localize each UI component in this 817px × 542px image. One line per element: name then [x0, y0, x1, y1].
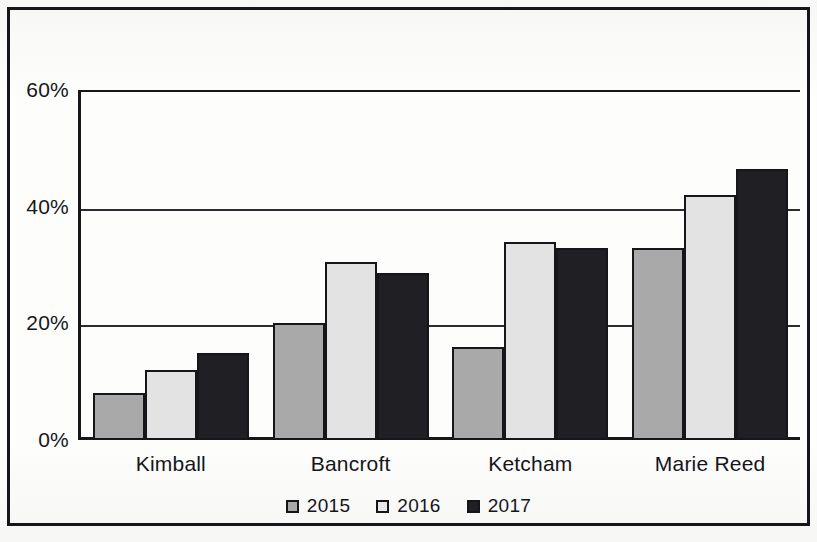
bar-kimball-2017: [197, 353, 249, 441]
bar-ketcham-2017: [556, 248, 608, 441]
bar-marie-reed-2017: [736, 169, 788, 440]
bar-kimball-2015: [93, 393, 145, 440]
legend-item-2016[interactable]: 2016: [376, 495, 440, 517]
x-axis-label-marie-reed: Marie Reed: [620, 452, 800, 476]
legend-swatch-icon-2016: [376, 500, 389, 513]
bar-bancroft-2015: [273, 323, 325, 440]
y-axis-tick-20%: 20%: [5, 311, 69, 335]
x-axis-label-bancroft: Bancroft: [261, 452, 441, 476]
bar-bancroft-2016: [325, 262, 377, 440]
chart-legend: 201520162017: [0, 495, 817, 517]
bar-bancroft-2017: [377, 273, 429, 440]
bar-ketcham-2016: [504, 242, 556, 440]
legend-label-2017: 2017: [488, 495, 531, 517]
bar-kimball-2016: [145, 370, 197, 440]
legend-swatch-icon-2017: [467, 500, 480, 513]
bar-group-bancroft: [261, 90, 441, 440]
y-axis-tick-40%: 40%: [5, 195, 69, 219]
bar-group-ketcham: [441, 90, 621, 440]
bar-ketcham-2015: [452, 347, 504, 440]
y-axis-tick-60%: 60%: [5, 78, 69, 102]
x-axis-category-labels: KimballBancroftKetchamMarie Reed: [81, 452, 800, 476]
bar-marie-reed-2016: [684, 195, 736, 440]
legend-swatch-icon-2015: [286, 500, 299, 513]
legend-label-2015: 2015: [307, 495, 350, 517]
legend-item-2015[interactable]: 2015: [286, 495, 350, 517]
bar-marie-reed-2015: [632, 248, 684, 441]
chart-figure: 0%20%40%60% KimballBancroftKetchamMarie …: [0, 0, 817, 542]
legend-label-2016: 2016: [397, 495, 440, 517]
x-axis-label-ketcham: Ketcham: [441, 452, 621, 476]
plot-wrapper: 0%20%40%60% KimballBancroftKetchamMarie …: [0, 0, 817, 542]
bar-groups: [81, 90, 800, 440]
y-axis-tick-0%: 0%: [5, 428, 69, 452]
bar-group-marie-reed: [620, 90, 800, 440]
x-axis-label-kimball: Kimball: [81, 452, 261, 476]
legend-item-2017[interactable]: 2017: [467, 495, 531, 517]
bar-group-kimball: [81, 90, 261, 440]
